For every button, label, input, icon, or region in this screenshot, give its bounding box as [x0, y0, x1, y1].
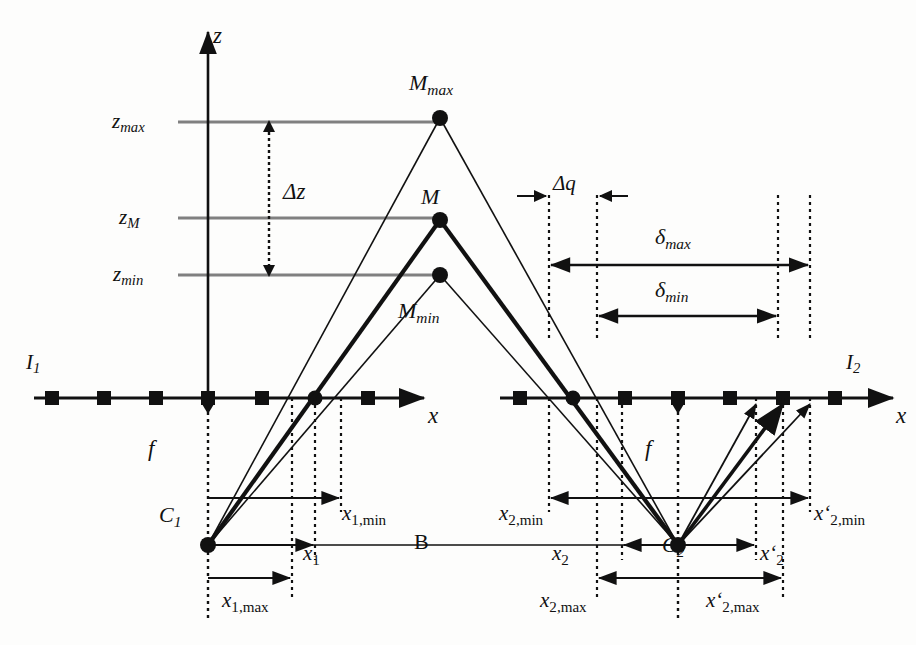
- offset-base-xp2: x‘: [760, 541, 776, 565]
- plane-base-I2: I: [846, 350, 853, 374]
- offset-sub-xp2max: 2,max: [722, 599, 759, 615]
- camera-label-C2: C2: [662, 534, 684, 559]
- image-plane-left: [34, 391, 424, 406]
- point-base-Mmin: M: [398, 298, 416, 323]
- delta-z-symbol: Δ: [283, 179, 297, 204]
- offset-base-x1min: x: [342, 501, 351, 525]
- delta-z-label: Δz: [283, 180, 305, 203]
- ray-right-principal: [440, 220, 678, 545]
- camera-sub-C2: 2: [677, 543, 685, 560]
- offset-label-x1min: x1,min: [342, 503, 386, 528]
- delta-q-symbol: Δ: [553, 171, 565, 195]
- level-sub-zmin: min: [121, 272, 143, 288]
- plane-base-I1: I: [26, 350, 33, 374]
- level-base-zmax: z: [112, 109, 120, 133]
- point-sub-Mmin: min: [416, 309, 439, 326]
- offset-label-x1: x1: [303, 543, 320, 568]
- delta-max-symbol: δ: [655, 224, 665, 249]
- offset-label-x1max: x1,max: [222, 590, 269, 615]
- offset-base-xp2max: x‘: [706, 588, 722, 612]
- x-axis-label-left: x: [428, 404, 438, 427]
- image-plane-right: [500, 391, 893, 406]
- image-plane-label-I1: I1: [26, 352, 40, 376]
- offset-label-xp2: x‘2: [760, 543, 784, 568]
- delta-q-variable: q: [565, 171, 576, 195]
- height-guide-lines: [178, 122, 443, 275]
- level-sub-zM: M: [127, 215, 139, 231]
- offset-base-xp2min: x‘: [814, 501, 830, 525]
- x-axis-label-right: x: [896, 404, 906, 427]
- point-base-M: M: [421, 184, 439, 209]
- camera-sub-C1: 1: [174, 513, 182, 530]
- focal-label-left: f: [148, 437, 154, 460]
- level-label-zM: zM: [119, 207, 139, 231]
- delta-max-sub: max: [665, 235, 691, 252]
- level-base-zmin: z: [113, 262, 121, 286]
- delta-z-variable: z: [297, 179, 306, 204]
- level-base-zM: z: [119, 205, 127, 229]
- level-sub-zmax: max: [120, 119, 144, 135]
- rays-left-camera: [208, 118, 440, 545]
- offset-base-x2min: x: [499, 501, 508, 525]
- baseline-label: B: [414, 531, 429, 553]
- delta-min-sub: min: [665, 288, 688, 305]
- offset-base-x2: x: [552, 541, 561, 565]
- offset-label-x2min: x2,min: [499, 503, 543, 528]
- offset-base-x2max: x: [540, 588, 549, 612]
- offset-label-xp2min: x‘2,min: [814, 503, 865, 528]
- delta-max-label: δmax: [655, 226, 691, 251]
- camera-label-C1: C1: [159, 504, 181, 529]
- offset-sub-xp2: 2: [776, 552, 784, 568]
- offset-label-x2: x2: [552, 543, 569, 568]
- z-axis-label: z: [213, 24, 222, 47]
- offset-sub-xp2min: 2,min: [830, 512, 865, 528]
- point-base-Mmax: M: [409, 70, 427, 95]
- point-label-Mmin: Mmin: [398, 300, 439, 325]
- focal-axis-right: [672, 398, 684, 622]
- image-plane-label-I2: I2: [846, 352, 860, 376]
- offset-label-x2max: x2,max: [540, 590, 587, 615]
- offset-sub-x2max: 2,max: [549, 599, 586, 615]
- rays-right-backprojection: [678, 404, 810, 545]
- focal-axis-left: [202, 398, 214, 622]
- plane-sub-I2: 2: [853, 360, 860, 376]
- offset-base-x1: x: [303, 541, 312, 565]
- delta-min-label: δmin: [655, 279, 688, 304]
- focal-label-right: f: [645, 437, 651, 460]
- delta-q-label: Δq: [553, 173, 576, 194]
- offset-base-x1max: x: [222, 588, 231, 612]
- point-sub-Mmax: max: [427, 81, 453, 98]
- level-label-zmin: zmin: [113, 264, 143, 288]
- level-label-zmax: zmax: [112, 111, 145, 135]
- point-label-M: M: [421, 186, 439, 208]
- figure-canvas: z x x zmax zM zmin Mmax M Mmin C1 C2 I1 …: [0, 0, 916, 645]
- offset-sub-x1max: 1,max: [231, 599, 268, 615]
- offset-label-xp2max: x‘2,max: [706, 590, 760, 615]
- camera-base-C2: C: [662, 532, 677, 557]
- offset-sub-x1: 1: [312, 552, 320, 568]
- point-label-Mmax: Mmax: [409, 72, 453, 97]
- offset-sub-x2: 2: [561, 552, 569, 568]
- plane-sub-I1: 1: [33, 360, 40, 376]
- offset-sub-x2min: 2,min: [508, 512, 543, 528]
- delta-z-measure: [263, 120, 275, 277]
- offset-sub-x1min: 1,min: [351, 512, 386, 528]
- delta-min-symbol: δ: [655, 277, 665, 302]
- ray-left-principal: [208, 220, 440, 545]
- camera-base-C1: C: [159, 502, 174, 527]
